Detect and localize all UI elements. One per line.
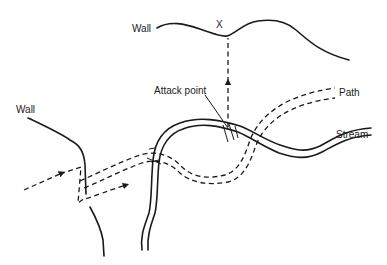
left-wall-label: Wall [16, 104, 35, 115]
route [24, 167, 126, 203]
stream-label: Stream [336, 129, 368, 140]
left-wall: Wall [16, 104, 104, 256]
top-wall-label: Wall [132, 23, 151, 34]
top-wall: Wall [132, 20, 349, 60]
stream: Stream [142, 119, 371, 250]
path: Path [80, 87, 360, 188]
navigation-diagram: Wall X Wall Stream Path Attack point [0, 0, 387, 265]
crossing-marks [147, 124, 238, 164]
target-x-marker: X [216, 19, 223, 30]
attack-point-label: Attack point [154, 85, 206, 96]
attack-point: Attack point [154, 85, 228, 128]
path-label: Path [339, 87, 360, 98]
